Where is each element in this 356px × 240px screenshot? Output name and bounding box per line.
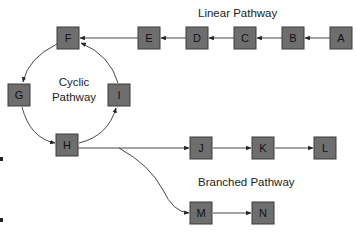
- svg-text:M: M: [196, 207, 205, 219]
- svg-text:G: G: [15, 89, 24, 101]
- svg-text:H: H: [63, 139, 71, 151]
- edge-mark: [0, 157, 3, 161]
- node-b: B: [282, 27, 304, 49]
- svg-text:A: A: [337, 32, 345, 44]
- pathway-diagram: A B C D E F G I H J K L M N Linear Pathw…: [0, 0, 356, 240]
- linear-pathway-label: Linear Pathway: [198, 7, 278, 19]
- svg-text:F: F: [65, 32, 72, 44]
- cyclic-pathway-label-line1: Cyclic: [59, 76, 90, 88]
- node-a: A: [330, 27, 352, 49]
- node-k: K: [252, 137, 274, 159]
- svg-text:C: C: [241, 32, 249, 44]
- svg-text:E: E: [145, 32, 152, 44]
- node-l: L: [314, 137, 336, 159]
- edge-f-g: [23, 44, 57, 82]
- node-d: D: [186, 27, 208, 49]
- node-e: E: [138, 27, 160, 49]
- cyclic-pathway-label-line2: Pathway: [52, 91, 96, 103]
- node-f: F: [57, 27, 79, 49]
- node-j: J: [190, 137, 212, 159]
- edge-h-i: [79, 108, 116, 143]
- svg-text:N: N: [259, 207, 267, 219]
- node-i: I: [108, 84, 130, 106]
- node-m: M: [190, 202, 212, 224]
- edge-h-m: [119, 148, 189, 213]
- node-c: C: [234, 27, 256, 49]
- svg-text:B: B: [289, 32, 296, 44]
- svg-text:K: K: [259, 142, 267, 154]
- node-n: N: [252, 202, 274, 224]
- edge-g-h: [22, 107, 55, 143]
- svg-text:I: I: [117, 89, 120, 101]
- edge-mark: [0, 218, 3, 222]
- svg-text:D: D: [193, 32, 201, 44]
- svg-text:L: L: [322, 142, 328, 154]
- node-h: H: [56, 134, 78, 156]
- branched-pathway-label: Branched Pathway: [198, 176, 295, 188]
- svg-text:J: J: [198, 142, 204, 154]
- node-g: G: [8, 84, 30, 106]
